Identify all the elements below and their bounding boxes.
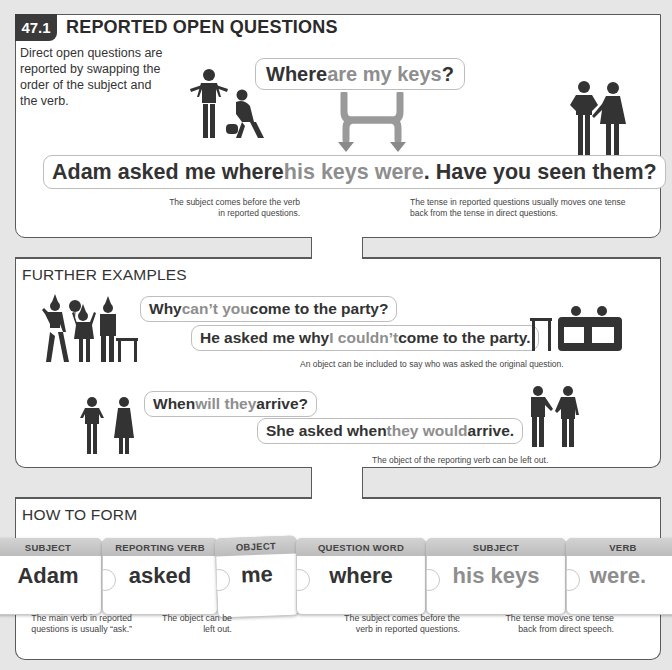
example2-note: The object of the reporting verb can be …	[372, 455, 622, 466]
note-main-verb: The main verb in reported questions is u…	[20, 613, 132, 635]
two-people-illustration	[76, 396, 142, 456]
puzzle-piece-reporting-verb: REPORTING VERB asked	[102, 538, 218, 615]
how-to-form-title: HOW TO FORM	[22, 506, 137, 524]
example1-direct-w2: can’t you	[182, 300, 250, 318]
piece-label: SUBJECT	[0, 538, 102, 556]
panel-connector	[311, 467, 363, 499]
reported-sentence-bubble: Adam asked me where his keys were. Have …	[43, 155, 666, 189]
piece-word: where	[297, 563, 425, 589]
puzzle-piece-subject: SUBJECT Adam	[0, 538, 102, 615]
example2-reported-bubble: She asked when they would arrive.	[257, 418, 523, 444]
example2-reported-w1: She asked when	[266, 422, 387, 440]
reported-intro: Adam asked me where	[52, 160, 284, 185]
example2-direct-w2: will they	[195, 395, 256, 413]
example2-reported-w3: arrive.	[468, 422, 515, 440]
note-subject-before-verb: The subject comes before the verb in rep…	[165, 197, 300, 219]
example1-direct-w1: Why	[149, 300, 182, 318]
note-subject-before-verb-2: The subject comes before the verb in rep…	[330, 613, 460, 635]
piece-word: Adam	[0, 563, 101, 589]
example2-direct-bubble: When will they arrive?	[144, 391, 317, 417]
further-examples-title: FURTHER EXAMPLES	[22, 266, 187, 284]
intro-text: Direct open questions are reported by sw…	[20, 45, 170, 109]
reported-subject-verb: his keys were	[284, 160, 424, 185]
example1-direct-bubble: Why can’t you come to the party?	[140, 296, 397, 322]
question-verb-subject: are my keys	[327, 63, 442, 86]
question-mark: ?	[442, 63, 454, 86]
section-number-badge: 47.1	[15, 14, 57, 41]
piece-word: his keys	[427, 563, 565, 589]
example2-direct-w3: arrive?	[256, 395, 308, 413]
example2-reported-w2: they would	[387, 422, 468, 440]
swap-arrows-icon	[320, 92, 420, 156]
piece-label: OBJECT	[215, 536, 298, 557]
piece-word: were.	[567, 563, 672, 589]
example2-direct-w1: When	[153, 395, 195, 413]
example1-reported-w1: He asked me why	[200, 329, 329, 347]
puzzle-piece-verb: VERB were.	[566, 538, 672, 615]
piece-label: REPORTING VERB	[102, 538, 218, 556]
example1-direct-w3: come to the party?	[250, 300, 389, 318]
example1-reported-bubble: He asked me why I couldn’t come to the p…	[191, 325, 539, 351]
example1-reported-w2: I couldn’t	[329, 329, 398, 347]
two-men-talking-illustration	[522, 385, 586, 449]
piece-label: QUESTION WORD	[296, 538, 426, 556]
reported-ending: . Have you seen them?	[424, 160, 657, 185]
piece-label: SUBJECT	[426, 538, 566, 556]
direct-question-bubble: Where are my keys?	[255, 58, 465, 90]
piece-label: VERB	[566, 538, 672, 556]
couple-illustration	[568, 80, 648, 156]
panel-connector	[311, 237, 363, 259]
note-object-left-out: The object can be left out.	[162, 613, 232, 635]
puzzle-piece-subject-2: SUBJECT his keys	[426, 538, 566, 615]
party-people-illustration	[42, 292, 142, 364]
section-title: REPORTED OPEN QUESTIONS	[66, 17, 338, 38]
people-on-sofa-illustration	[530, 303, 625, 353]
note-tense-moves: The tense moves one tense back from dire…	[494, 613, 614, 635]
puzzle-piece-question-word: QUESTION WORD where	[296, 538, 426, 615]
piece-word: asked	[103, 563, 217, 589]
question-word: Where	[266, 63, 327, 86]
example1-note: An object can be included to say who was…	[300, 359, 600, 370]
example1-reported-w3: come to the party.	[398, 329, 530, 347]
note-tense-moves-back: The tense in reported questions usually …	[410, 197, 635, 219]
